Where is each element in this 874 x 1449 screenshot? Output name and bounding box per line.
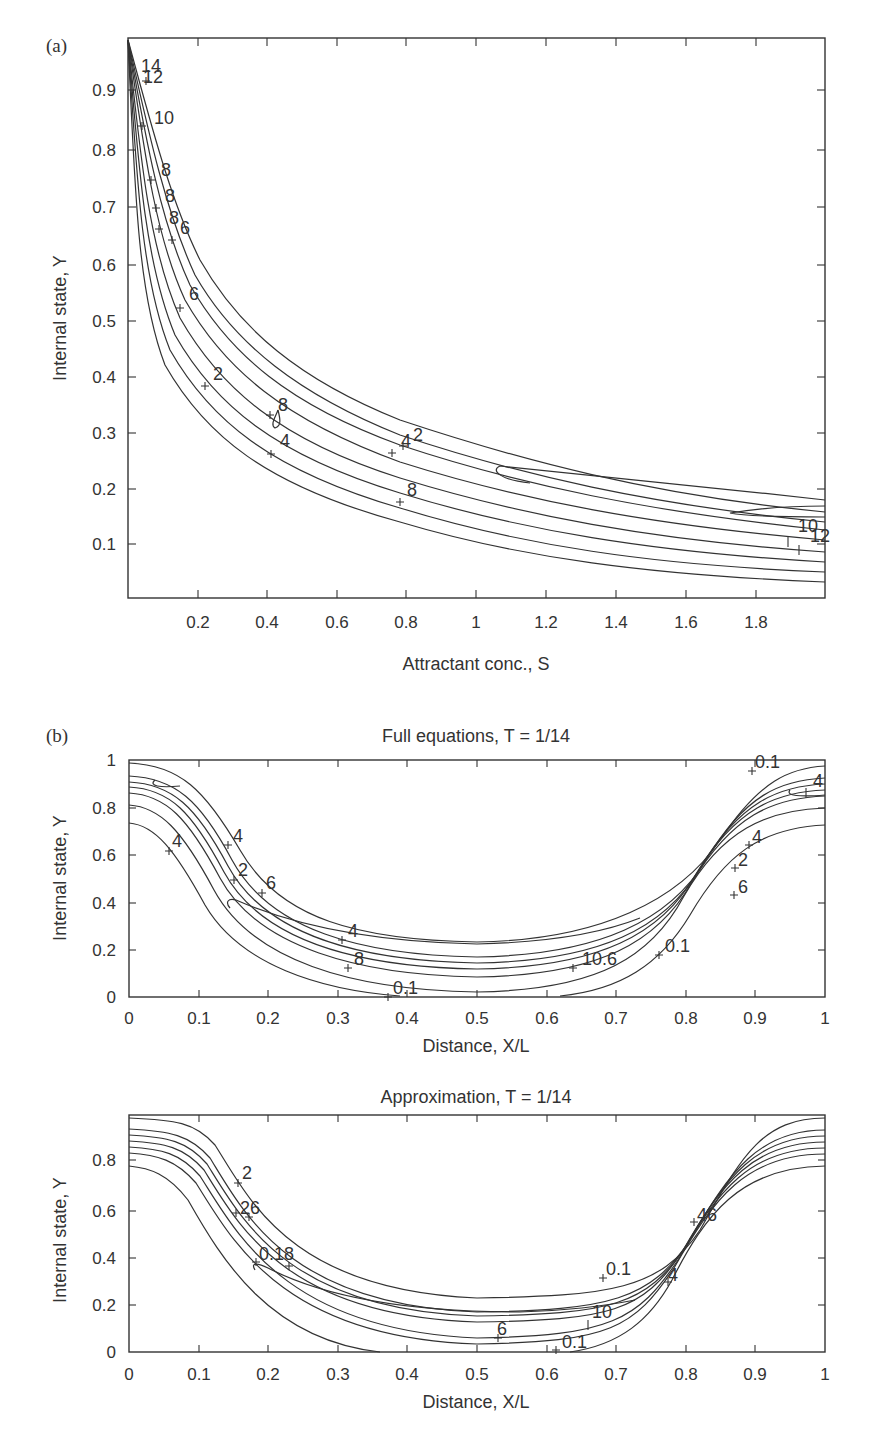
- ytick-label: 0.2: [92, 1296, 116, 1315]
- contour-label: 0.1: [665, 936, 690, 956]
- xtick-label: 0.3: [326, 1365, 350, 1384]
- plot-b2-contour-labels: 2 26 0.18 0.1 4 46 10 6 0.1: [240, 1163, 717, 1352]
- xtick-label: 0.8: [674, 1365, 698, 1384]
- contour-label: 10.6: [582, 949, 617, 969]
- figure-canvas: (a) 0.1 0.2 0.3 0.4 0.5 0.6 0.7 0.8 0.9: [0, 0, 874, 1449]
- ytick-label: 0.6: [92, 1202, 116, 1221]
- plot-b2-title: Approximation, T = 1/14: [381, 1087, 572, 1107]
- contour-label: 6: [180, 218, 190, 238]
- contour-label: 4: [172, 831, 182, 851]
- xtick-label: 0.1: [187, 1365, 211, 1384]
- xtick-label: 0.8: [394, 613, 418, 632]
- contour-label: 12: [143, 67, 163, 87]
- plot-b1-contour-labels: 4 4 2 6 4 8 0.1 10.6 0.1 2 6 4 0.1 4: [172, 752, 823, 998]
- xtick-label: 1: [471, 613, 480, 632]
- plot-b1-ylabel: Internal state, Y: [50, 815, 70, 941]
- contour-label: 2: [242, 1163, 252, 1183]
- xtick-label: 1.8: [744, 613, 768, 632]
- xtick-label: 1.6: [674, 613, 698, 632]
- panel-b-full: (b) Full equations, T = 1/14 0 0.2 0.4 0…: [46, 725, 830, 1056]
- xtick-label: 0.4: [255, 613, 279, 632]
- plot-b2-contours: [129, 1118, 825, 1352]
- contour-label: 46: [697, 1205, 717, 1225]
- xtick-label: 0.6: [535, 1365, 559, 1384]
- plot-b2-yaxis: 0 0.2 0.4 0.6 0.8: [92, 1151, 825, 1362]
- plot-a-contours: [128, 40, 825, 582]
- panel-a: (a) 0.1 0.2 0.3 0.4 0.5 0.6 0.7 0.8 0.9: [46, 35, 830, 674]
- contour-label: 0.1: [755, 752, 780, 772]
- contour-label: 8: [161, 160, 171, 180]
- ytick-label: 0.5: [92, 312, 116, 331]
- plot-a-xaxis: 0.2 0.4 0.6 0.8 1 1.2 1.4 1.6 1.8: [186, 38, 768, 632]
- ytick-label: 1: [107, 751, 116, 770]
- ytick-label: 0.6: [92, 256, 116, 275]
- contour-label: 8: [165, 186, 175, 206]
- plot-b1-title: Full equations, T = 1/14: [382, 726, 570, 746]
- ytick-label: 0.4: [92, 368, 116, 387]
- ytick-label: 0.6: [92, 846, 116, 865]
- contour-label: 2: [213, 364, 223, 384]
- xtick-label: 0.3: [326, 1009, 350, 1028]
- xtick-label: 0.2: [186, 613, 210, 632]
- xtick-label: 0.4: [395, 1365, 419, 1384]
- ytick-label: 0.1: [92, 535, 116, 554]
- contour-label: 0.1: [562, 1332, 587, 1352]
- contour-label: 4: [813, 771, 823, 791]
- ytick-label: 0.4: [92, 894, 116, 913]
- contour-label: 4: [668, 1265, 678, 1285]
- contour-label: 10: [154, 108, 174, 128]
- xtick-label: 1.2: [534, 613, 558, 632]
- panel-b-label: (b): [46, 725, 68, 747]
- xtick-label: 0.5: [465, 1365, 489, 1384]
- xtick-label: 0.9: [743, 1365, 767, 1384]
- xtick-label: 0.1: [187, 1009, 211, 1028]
- xtick-label: 0.6: [535, 1009, 559, 1028]
- xtick-label: 0.7: [604, 1009, 628, 1028]
- panel-a-label: (a): [46, 35, 67, 57]
- xtick-label: 1: [820, 1009, 829, 1028]
- plot-a-xlabel: Attractant conc., S: [402, 654, 549, 674]
- contour-label: 8: [278, 395, 288, 415]
- contour-label: 6: [266, 873, 276, 893]
- plot-b2-xlabel: Distance, X/L: [422, 1392, 529, 1412]
- contour-label: 12: [810, 526, 830, 546]
- xtick-label: 0: [124, 1009, 133, 1028]
- plot-a-label-markers: [138, 77, 799, 555]
- plot-a-contour-labels: 14 12 10 8 8 8 6 6 2 8 4 4 2 8 10 12: [141, 56, 830, 546]
- xtick-label: 1.4: [604, 613, 628, 632]
- contour-label: 6: [497, 1319, 507, 1339]
- ytick-label: 0.2: [92, 480, 116, 499]
- contour-label: 4: [280, 431, 290, 451]
- xtick-label: 1: [820, 1365, 829, 1384]
- ytick-label: 0.8: [92, 799, 116, 818]
- contour-label: 4: [752, 827, 762, 847]
- xtick-label: 0.2: [256, 1009, 280, 1028]
- xtick-label: 0.6: [325, 613, 349, 632]
- contour-label: 4: [401, 431, 411, 451]
- contour-label: 0.1: [393, 978, 418, 998]
- contour-label: 0.18: [259, 1244, 294, 1264]
- contour-label: 6: [738, 877, 748, 897]
- ytick-label: 0.8: [92, 1151, 116, 1170]
- contour-label: 4: [233, 826, 243, 846]
- xtick-label: 0.7: [604, 1365, 628, 1384]
- contour-label: 2: [738, 850, 748, 870]
- ytick-label: 0.2: [92, 941, 116, 960]
- xtick-label: 0.2: [256, 1365, 280, 1384]
- xtick-label: 0.9: [743, 1009, 767, 1028]
- panel-b-approx: Approximation, T = 1/14 0 0.2 0.4 0.6 0.…: [50, 1087, 830, 1412]
- contour-label: 0.1: [606, 1259, 631, 1279]
- plot-b1-xlabel: Distance, X/L: [422, 1036, 529, 1056]
- contour-label: 2: [413, 425, 423, 445]
- xtick-label: 0: [124, 1365, 133, 1384]
- contour-label: 8: [169, 208, 179, 228]
- contour-label: 10: [592, 1302, 612, 1322]
- contour-label: 26: [240, 1198, 260, 1218]
- ytick-label: 0.8: [92, 141, 116, 160]
- contour-label: 8: [407, 480, 417, 500]
- ytick-label: 0.7: [92, 198, 116, 217]
- contour-label: 6: [189, 284, 199, 304]
- xtick-label: 0.5: [465, 1009, 489, 1028]
- ytick-label: 0.4: [92, 1249, 116, 1268]
- ytick-label: 0.9: [92, 81, 116, 100]
